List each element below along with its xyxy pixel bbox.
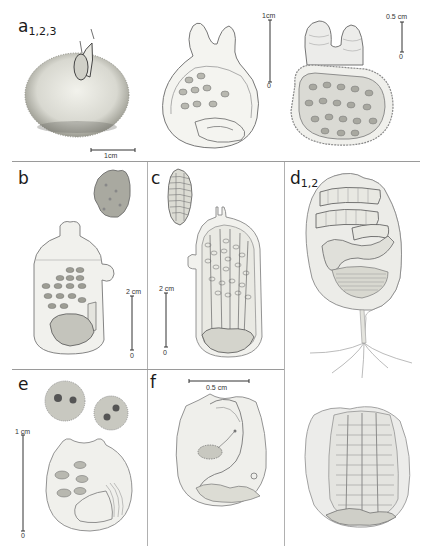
specimen-b-whole: [88, 165, 134, 221]
scale-label-a1: 1cm: [104, 152, 117, 159]
scale-label-a3: 0.5 cm: [386, 13, 407, 20]
scale-zero-b: 0: [130, 352, 134, 359]
panel-letter: b: [18, 168, 29, 188]
panel-label-c: c: [151, 170, 160, 187]
specimen-a1-whole: [20, 15, 140, 140]
scale-bar-c: [163, 293, 169, 349]
specimen-d1: [292, 168, 430, 383]
divider-c-d: [284, 162, 285, 546]
specimen-b-section: [30, 220, 130, 355]
specimen-d2: [300, 395, 415, 535]
panel-letter: e: [18, 374, 28, 394]
specimen-c-section: [188, 205, 272, 360]
divider-top: [12, 161, 420, 162]
panel-label-f: f: [150, 374, 156, 391]
panel-label-e: e: [18, 376, 28, 393]
scale-zero-a2: 0: [267, 82, 271, 89]
scale-zero-a3: 0: [399, 53, 403, 60]
specimen-e-whole-2: [91, 393, 131, 433]
scale-label-a2: 1cm: [262, 12, 275, 19]
scale-zero-e: 0: [21, 532, 25, 539]
divider-middle: [12, 369, 284, 370]
specimen-e-section: [40, 435, 140, 535]
specimen-a3-opened: [285, 15, 397, 150]
specimen-f-section: [170, 392, 270, 512]
scale-label-e: 1 cm: [15, 428, 30, 435]
scale-label-c: 2 cm: [159, 285, 174, 292]
specimen-e-whole-1: [43, 379, 87, 423]
scale-bar-b: [129, 296, 135, 352]
scale-zero-c: 0: [163, 349, 167, 356]
specimen-a2-section: [155, 18, 265, 153]
panel-letter: f: [150, 372, 156, 392]
scale-label-b: 2 cm: [126, 288, 141, 295]
scale-bar-a3: [399, 22, 405, 54]
scale-bar-a2: [267, 20, 273, 84]
scale-bar-e: [20, 435, 26, 533]
scale-label-f: 0.5 cm: [206, 384, 227, 391]
divider-b-c: [147, 162, 148, 546]
panel-label-b: b: [18, 170, 29, 187]
panel-letter: c: [151, 168, 160, 188]
